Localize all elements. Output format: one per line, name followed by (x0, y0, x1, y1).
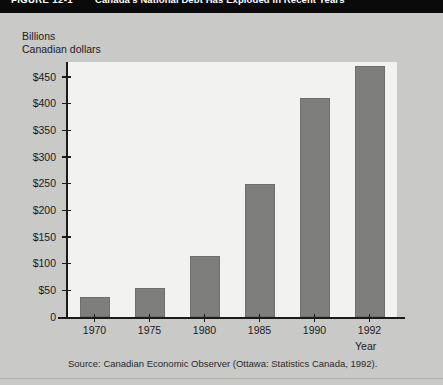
figure-number-label: FIGURE 12-1 (11, 0, 73, 5)
figure-panel: FIGURE 12-1 Canada's National Debt Has E… (0, 0, 443, 385)
x-axis-tick-label: 1992 (347, 324, 393, 336)
y-axis-tick (62, 156, 71, 157)
x-axis-tick (94, 314, 95, 322)
y-axis-tick (62, 290, 71, 291)
x-axis-tick (149, 314, 150, 322)
y-axis-tick-label: $200 (8, 204, 56, 216)
bar (300, 98, 330, 317)
x-axis-tick (314, 314, 315, 322)
y-axis-tick (62, 236, 71, 237)
x-axis-title: Year (355, 340, 376, 352)
y-axis-tick-label: $150 (8, 231, 56, 243)
y-axis-tick-label: 0 (8, 311, 56, 323)
bar (190, 256, 220, 317)
bar (135, 288, 165, 317)
figure-title-bar: FIGURE 12-1 Canada's National Debt Has E… (0, 0, 443, 13)
y-axis-tick (62, 210, 71, 211)
x-axis-tick-label: 1975 (127, 324, 173, 336)
y-axis-tick-label: $400 (8, 97, 56, 109)
y-axis-tick-label: $100 (8, 257, 56, 269)
x-axis-tick-label: 1990 (292, 324, 338, 336)
y-axis-tick-label: $300 (8, 151, 56, 163)
x-axis-tick-label: 1970 (72, 324, 118, 336)
y-axis-tick (62, 76, 71, 77)
y-axis-tick-label: $450 (8, 71, 56, 83)
bar (355, 66, 385, 317)
y-axis-tick (62, 263, 71, 264)
x-axis-tick-label: 1980 (182, 324, 228, 336)
x-axis-line (58, 317, 405, 319)
bar (245, 184, 275, 317)
y-axis-line (66, 62, 68, 318)
plot-area (67, 62, 397, 317)
x-axis-tick (259, 314, 260, 322)
x-axis-tick (204, 314, 205, 322)
figure-title-text: Canada's National Debt Has Exploded in R… (95, 0, 345, 5)
y-axis-tick (62, 130, 71, 131)
y-axis-tick (62, 103, 71, 104)
bars-container (67, 62, 397, 317)
y-axis-tick-label: $250 (8, 177, 56, 189)
y-axis-caption: Billions Canadian dollars (22, 30, 101, 56)
bottom-divider (0, 378, 443, 379)
y-axis-tick (62, 183, 71, 184)
y-axis-tick-label: $350 (8, 124, 56, 136)
x-axis-tick (369, 314, 370, 322)
y-axis-tick-label: $50 (8, 284, 56, 296)
x-axis-tick-label: 1985 (237, 324, 283, 336)
source-note: Source: Canadian Economic Observer (Otta… (68, 358, 377, 369)
